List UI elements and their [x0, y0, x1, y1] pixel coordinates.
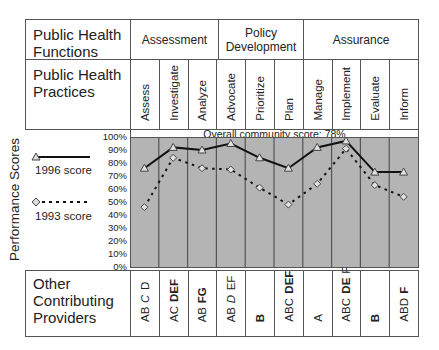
- practice-analyze: Analyze: [188, 59, 218, 130]
- practice-advocate: Advocate: [216, 59, 246, 130]
- y-tick-label: 50%: [93, 197, 127, 207]
- provider-cell-investigate: ACDEF: [159, 270, 189, 337]
- provider-cell-manage: A: [303, 270, 333, 337]
- functions-label: Public Health Functions: [26, 20, 130, 60]
- providers-label: Other Contributing Providers: [26, 271, 130, 326]
- y-tick-label: 40%: [93, 210, 127, 220]
- practice-manage: Manage: [303, 59, 333, 130]
- provider-cell-plan: ABCDEF: [274, 270, 304, 337]
- provider-cell-assess: ABCD: [130, 270, 160, 337]
- y-tick-label: 100%: [93, 132, 127, 142]
- legend-1996-line: [30, 150, 92, 162]
- legend-1993-line: [30, 196, 92, 208]
- legend-1996-label: 1996 score: [35, 164, 92, 176]
- practice-investigate: Investigate: [159, 59, 189, 130]
- practice-evaluate: Evaluate: [360, 59, 390, 130]
- plot-area: [130, 137, 419, 268]
- legend: 1996 score 1993 score: [30, 150, 100, 260]
- practice-assess: Assess: [130, 59, 160, 130]
- function-assessment: Assessment: [130, 19, 219, 60]
- practices-label-cell: Public Health Practices: [25, 59, 131, 130]
- provider-cell-implement: ABCDEF: [332, 270, 362, 337]
- functions-label-cell: Public Health Functions: [25, 19, 131, 60]
- legend-1993-label: 1993 score: [35, 210, 92, 222]
- function-policy-development: Policy Development: [218, 19, 304, 60]
- provider-cell-prioritize: B: [245, 270, 275, 337]
- y-tick-label: 10%: [93, 249, 127, 259]
- y-axis-title: Performance Scores: [2, 140, 26, 260]
- provider-cell-evaluate: B: [360, 270, 390, 337]
- diamond-icon: [32, 198, 40, 206]
- y-tick-label: 60%: [93, 184, 127, 194]
- practice-implement: Implement: [332, 59, 362, 130]
- practice-plan: Plan: [274, 59, 304, 130]
- function-assurance: Assurance: [303, 19, 419, 60]
- y-tick-label: 80%: [93, 158, 127, 168]
- y-tick-label: 30%: [93, 223, 127, 233]
- provider-cell-analyze: ABFG: [188, 270, 218, 337]
- practices-label: Public Health Practices: [26, 60, 130, 100]
- practice-prioritize: Prioritize: [245, 59, 275, 130]
- provider-cell-advocate: ABDEF: [216, 270, 246, 337]
- y-tick-label: 20%: [93, 236, 127, 246]
- y-tick-label: 70%: [93, 171, 127, 181]
- providers-label-cell: Other Contributing Providers: [25, 270, 131, 337]
- practice-inform: Inform: [389, 59, 419, 130]
- y-tick-label: 90%: [93, 145, 127, 155]
- provider-cell-inform: ABDF: [389, 270, 419, 337]
